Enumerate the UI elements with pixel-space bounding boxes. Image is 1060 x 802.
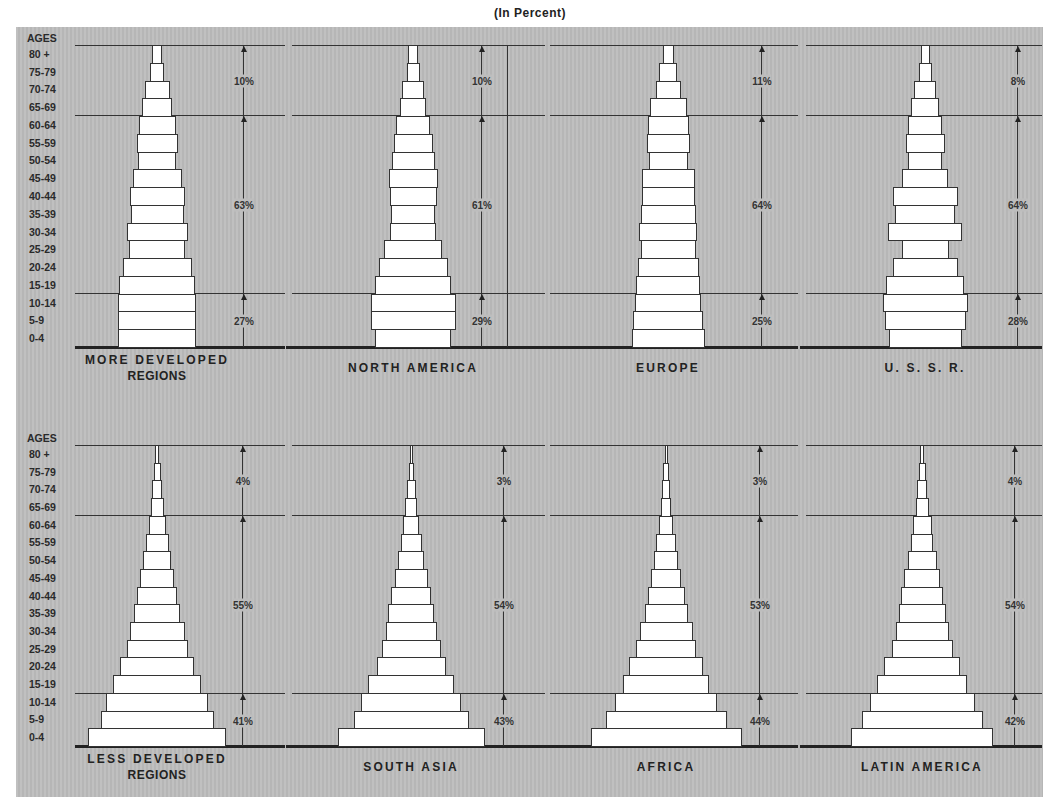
age-group-label: 45-49 <box>29 172 56 184</box>
region-label: EUROPE <box>636 360 700 376</box>
pyramid-bar <box>649 152 688 171</box>
pyramid-bar <box>403 516 419 535</box>
pyramid-bar <box>138 152 176 171</box>
pyramid-bar <box>656 534 676 553</box>
pyramid-bar <box>150 63 164 82</box>
pyramid-bar <box>883 294 968 313</box>
pyramid-bar <box>390 223 436 242</box>
pyramid-bar <box>88 728 226 747</box>
pyramid-bar <box>615 693 717 712</box>
pyramid-bar <box>130 187 185 206</box>
pyramid-bar <box>123 258 192 277</box>
pyramid-bar <box>407 63 420 82</box>
pyramid-bar <box>642 169 695 188</box>
arrow-up-icon <box>1015 294 1021 300</box>
arrow-up-icon <box>1015 46 1021 52</box>
pyramid-bar <box>662 480 670 499</box>
age-group-label: 50-54 <box>29 554 56 566</box>
region-label: LATIN AMERICA <box>861 759 983 775</box>
pyramid-bar <box>902 169 948 188</box>
pyramid-bar <box>375 329 451 348</box>
pct-15-64: 64% <box>1008 199 1028 212</box>
pyramid-bar <box>390 187 437 206</box>
arrow-up-icon <box>479 294 485 300</box>
pyramid-bar <box>606 711 727 730</box>
pyramid-bar <box>368 675 454 694</box>
pyramid-bar <box>913 516 932 535</box>
pyramid-bar <box>400 98 426 117</box>
region-label-line1: U. S. S. R. <box>885 360 966 376</box>
age-group-label: 15-19 <box>29 279 56 291</box>
pyramid-bar <box>410 445 413 464</box>
pyramid-bar <box>384 240 442 259</box>
pct-15-64: 63% <box>234 199 254 212</box>
pyramid-bar <box>635 294 701 313</box>
ages-axis-title: AGES <box>27 432 57 444</box>
arrow-up-icon <box>1012 694 1018 700</box>
pct-15-64: 53% <box>750 599 770 612</box>
arrow-up-icon <box>241 116 247 122</box>
pyramid-bar <box>395 569 428 588</box>
pyramid-bar <box>113 675 201 694</box>
pct-65-plus: 3% <box>753 475 767 488</box>
pct-15-64: 54% <box>494 599 514 612</box>
ages-axis-title: AGES <box>27 32 57 44</box>
age-group-label: 5-9 <box>29 713 44 725</box>
pyramid-bar <box>145 81 170 100</box>
age-group-label: 50-54 <box>29 154 56 166</box>
pyramid-bar <box>152 480 162 499</box>
region-label-line1: NORTH AMERICA <box>348 360 478 376</box>
bracket-line <box>1014 445 1015 746</box>
arrow-up-icon <box>240 446 246 452</box>
pyramid-bar <box>354 711 469 730</box>
pyramid-bar <box>152 45 162 64</box>
pyramid-bar <box>870 693 975 712</box>
pyramid-bar <box>665 445 668 464</box>
pyramid-bar <box>382 640 441 659</box>
pyramid-bar <box>142 98 172 117</box>
pct-0-14: 28% <box>1008 315 1028 328</box>
pyramid-bar <box>389 169 438 188</box>
region-label: U. S. S. R. <box>885 360 966 376</box>
pyramid-bar <box>663 45 674 64</box>
pyramid-bar <box>409 463 414 482</box>
arrow-up-icon <box>757 516 763 522</box>
pyramid-bar <box>629 657 703 676</box>
pyramid-bar <box>639 223 697 242</box>
pyramid-bar <box>361 693 461 712</box>
age-group-label: 65-69 <box>29 101 56 113</box>
pct-0-14: 25% <box>752 315 772 328</box>
pyramid-bar <box>120 657 194 676</box>
divider-line <box>507 45 508 347</box>
line-age-top <box>806 445 1042 446</box>
arrow-up-icon <box>241 294 247 300</box>
pct-15-64: 64% <box>752 199 772 212</box>
pyramid-bar <box>648 587 685 606</box>
age-group-label: 25-29 <box>29 243 56 255</box>
pyramid-bar <box>851 728 993 747</box>
pyramid-bar <box>884 657 960 676</box>
pct-65-plus: 10% <box>234 75 254 88</box>
pyramid-bar <box>641 205 696 224</box>
age-group-label: 60-64 <box>29 119 56 131</box>
pyramid-bar <box>371 311 456 330</box>
pct-15-64: 61% <box>472 199 492 212</box>
pyramid-bar <box>129 240 185 259</box>
pyramid-bar <box>896 622 949 641</box>
pyramid-bar <box>636 276 700 295</box>
region-label-line1: LESS DEVELOPED <box>87 751 227 767</box>
age-group-label: 0-4 <box>29 731 44 743</box>
pyramid-bar <box>663 463 669 482</box>
pyramid-bar <box>919 63 932 82</box>
pyramid-bar <box>902 240 949 259</box>
pyramid-bar <box>659 63 677 82</box>
pyramid-bar <box>154 463 161 482</box>
age-group-label: 35-39 <box>29 208 56 220</box>
pyramid-bar <box>911 98 939 117</box>
arrow-up-icon <box>240 516 246 522</box>
region-label: SOUTH ASIA <box>363 759 459 775</box>
pyramid-bar <box>889 329 962 348</box>
pyramid-bar <box>139 116 176 135</box>
region-label: MORE DEVELOPEDREGIONS <box>85 352 229 384</box>
pyramid-bar <box>916 498 929 517</box>
